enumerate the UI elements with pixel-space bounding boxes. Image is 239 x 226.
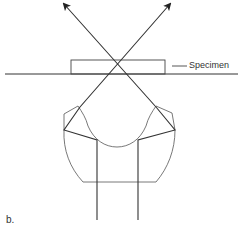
beam-incident-right [64,4,175,220]
diagram-canvas [0,0,239,226]
beam-incident-left [64,4,170,220]
specimen-label: Specimen [189,61,229,70]
prism-body-outline [64,106,175,182]
figure-label: b. [6,215,14,225]
specimen-block [71,60,165,74]
